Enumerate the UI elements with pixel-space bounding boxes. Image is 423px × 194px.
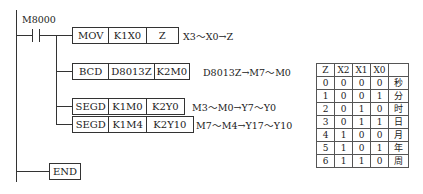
- cell: 0: [353, 142, 371, 155]
- cell: 0: [353, 129, 371, 142]
- rung-wire-1: [16, 35, 32, 36]
- cell: 6: [317, 155, 335, 168]
- cell: 0: [353, 77, 371, 90]
- operand-dest: K2Y10: [146, 117, 193, 132]
- instruction-note: M3～M0→Y7～Y0: [192, 100, 276, 114]
- cell: 0: [371, 103, 389, 116]
- cell: 4: [317, 129, 335, 142]
- cell: 3: [317, 116, 335, 129]
- instruction-mov[interactable]: MOV K1X0 Z: [72, 27, 179, 44]
- instruction-segd-2[interactable]: SEGD K1M4 K2Y10: [72, 116, 194, 133]
- opcode: MOV: [73, 28, 108, 43]
- contact-label: M8000: [22, 15, 56, 25]
- opcode: SEGD: [73, 99, 108, 114]
- cell: 1: [335, 142, 353, 155]
- operand-dest: K2M0: [154, 64, 189, 79]
- operand-source: K1M0: [108, 99, 145, 114]
- cell: 0: [317, 77, 335, 90]
- header-cell: X2: [335, 64, 353, 77]
- instruction-note: D8013Z→M7～M0: [203, 65, 291, 79]
- table-row: 3 0 1 1 日: [317, 116, 409, 129]
- cell: 0: [335, 90, 353, 103]
- cell: 0: [335, 116, 353, 129]
- branch-wire-3: [56, 106, 72, 107]
- end-wire: [16, 171, 49, 172]
- cell: 0: [371, 155, 389, 168]
- table-row: 1 0 0 1 分: [317, 90, 409, 103]
- instruction-note: M7～M4→Y17～Y10: [196, 118, 292, 132]
- cell: 1: [335, 129, 353, 142]
- table-row: 6 1 1 0 周: [317, 155, 409, 168]
- opcode: BCD: [73, 64, 108, 79]
- header-cell: Z: [317, 64, 335, 77]
- instruction-bcd[interactable]: BCD D8013Z K2M0: [72, 63, 190, 80]
- branch-bus: [56, 35, 57, 125]
- cell: 日: [389, 116, 409, 129]
- cell: 0: [353, 90, 371, 103]
- table-row: 2 0 1 0 时: [317, 103, 409, 116]
- cell: 1: [371, 90, 389, 103]
- operand-dest: K2Y0: [146, 99, 184, 114]
- branch-wire-4: [56, 124, 72, 125]
- branch-wire-2: [56, 71, 72, 72]
- table-row: 5 1 0 1 年: [317, 142, 409, 155]
- cell: 0: [371, 77, 389, 90]
- table-row: 4 1 0 0 月: [317, 129, 409, 142]
- branch-wire-1: [56, 35, 72, 36]
- cell: 周: [389, 155, 409, 168]
- operand-source: D8013Z: [108, 64, 153, 79]
- cell: 1: [353, 116, 371, 129]
- table-header-row: Z X2 X1 X0: [317, 64, 409, 77]
- operand-source: K1X0: [108, 28, 145, 43]
- cell: 1: [335, 155, 353, 168]
- cell: 分: [389, 90, 409, 103]
- cell: 5: [317, 142, 335, 155]
- cell: 1: [371, 142, 389, 155]
- operand-source: K1M4: [108, 117, 145, 132]
- cell: 2: [317, 103, 335, 116]
- end-instruction[interactable]: END: [49, 163, 81, 180]
- cell: 1: [353, 103, 371, 116]
- table-row: 0 0 0 0 秒: [317, 77, 409, 90]
- contact-bar-left: [32, 29, 33, 42]
- mode-table: Z X2 X1 X0 0 0 0 0 秒 1 0 0 1 分 2 0 1 0 时…: [316, 63, 409, 168]
- header-cell: X1: [353, 64, 371, 77]
- cell: 月: [389, 129, 409, 142]
- cell: 1: [353, 155, 371, 168]
- opcode: SEGD: [73, 117, 108, 132]
- header-cell: [389, 64, 409, 77]
- cell: 年: [389, 142, 409, 155]
- cell: 1: [371, 116, 389, 129]
- end-label: END: [50, 164, 80, 179]
- instruction-segd-1[interactable]: SEGD K1M0 K2Y0: [72, 98, 185, 115]
- cell: 1: [317, 90, 335, 103]
- header-cell: X0: [371, 64, 389, 77]
- operand-dest: Z: [146, 28, 178, 43]
- cell: 秒: [389, 77, 409, 90]
- instruction-note: X3～X0→Z: [183, 29, 233, 43]
- cell: 0: [371, 129, 389, 142]
- cell: 0: [335, 77, 353, 90]
- cell: 0: [335, 103, 353, 116]
- cell: 时: [389, 103, 409, 116]
